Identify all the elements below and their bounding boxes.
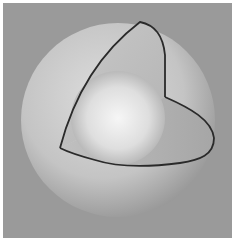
sphere-cutaway-diagram: [0, 0, 237, 242]
